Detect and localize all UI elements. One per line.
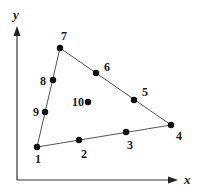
node-3-label: 3 <box>127 138 133 152</box>
node-9-dot <box>42 109 48 115</box>
node-10-label: 10 <box>72 95 84 109</box>
node-7-dot <box>57 45 63 51</box>
node-4-label: 4 <box>176 129 182 143</box>
node-10-dot <box>85 99 91 105</box>
node-8-dot <box>50 77 56 83</box>
x-axis-label: x <box>183 172 191 187</box>
element-diagram: y x 12345678910 <box>0 0 197 193</box>
node-2-label: 2 <box>81 147 87 161</box>
diagram-svg: y x 12345678910 <box>0 0 197 193</box>
edge-7-1 <box>37 48 60 147</box>
y-axis-arrow-icon <box>14 26 21 36</box>
node-1-dot <box>34 144 40 150</box>
node-5-label: 5 <box>142 85 148 99</box>
node-8-label: 8 <box>40 74 46 88</box>
node-7-label: 7 <box>61 29 67 43</box>
x-axis-arrow-icon <box>168 177 178 184</box>
node-4-dot <box>168 122 174 128</box>
element-nodes: 12345678910 <box>33 29 182 166</box>
y-axis-label: y <box>11 7 19 22</box>
edge-4-7 <box>60 48 171 125</box>
node-2-dot <box>76 137 82 143</box>
node-9-label: 9 <box>33 105 39 119</box>
node-6-dot <box>93 70 99 76</box>
edge-1-4 <box>37 125 171 147</box>
node-1-label: 1 <box>35 152 41 166</box>
node-6-label: 6 <box>104 60 110 74</box>
node-3-dot <box>123 129 129 135</box>
node-5-dot <box>131 97 137 103</box>
